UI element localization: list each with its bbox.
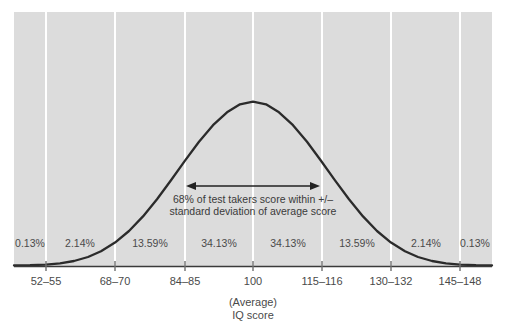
tick-label: 115–116 [301, 275, 342, 287]
tick-label: 68–70 [100, 275, 131, 287]
percent-label: 13.59% [132, 237, 168, 249]
annotation-line-1: 68% of test takers score within +/– [173, 193, 333, 205]
tick-label: 130–132 [370, 275, 413, 287]
percent-label: 0.13% [15, 237, 45, 249]
x-axis-tick-labels: 52–55 68–70 84–85 100 115–116 130–132 14… [31, 275, 482, 287]
percent-label: 2.14% [65, 237, 95, 249]
percent-label: 0.13% [460, 237, 490, 249]
iq-distribution-chart: 68% of test takers score within +/– stan… [0, 0, 506, 328]
percent-label: 34.13% [201, 237, 237, 249]
percent-label: 13.59% [339, 237, 375, 249]
x-axis-title-line-1: (Average) [229, 296, 277, 308]
chart-canvas: 68% of test takers score within +/– stan… [0, 0, 506, 328]
tick-label: 52–55 [31, 275, 62, 287]
percent-label: 2.14% [411, 237, 441, 249]
tick-label: 100 [244, 275, 262, 287]
annotation-line-2: standard deviation of average score [170, 205, 337, 217]
tick-label: 84–85 [170, 275, 201, 287]
x-axis-title-line-2: IQ score [232, 309, 274, 321]
tick-label: 145–148 [439, 275, 482, 287]
percent-label: 34.13% [270, 237, 306, 249]
